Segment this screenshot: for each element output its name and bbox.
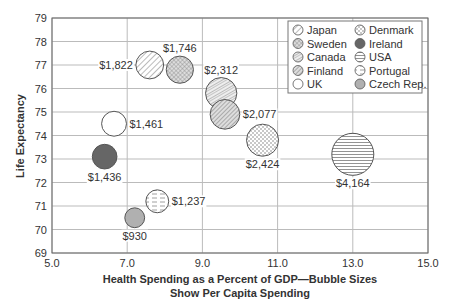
- bubble-label-japan: $1,822: [99, 59, 133, 71]
- legend-swatch-finland: [293, 66, 303, 76]
- bubble-ireland: [92, 144, 117, 169]
- y-tick-label: 72: [35, 177, 47, 189]
- legend-label-uk: UK: [307, 78, 323, 90]
- legend-label-usa: USA: [369, 51, 392, 63]
- y-tick-label: 77: [35, 59, 47, 71]
- y-tick-label: 76: [35, 83, 47, 95]
- bubble-finland: [210, 100, 240, 130]
- legend-swatch-sweden: [293, 39, 303, 49]
- bubble-label-ireland: $1,436: [88, 171, 122, 183]
- y-tick-label: 75: [35, 106, 47, 118]
- legend-label-japan: Japan: [307, 24, 337, 36]
- bubble-denmark: [247, 124, 279, 156]
- legend-label-finland: Finland: [307, 65, 343, 77]
- x-axis-title-line2: Show Per Capita Spending: [170, 287, 310, 299]
- bubble-label-portugal: $1,237: [172, 195, 206, 207]
- y-axis-title: Life Expectancy: [14, 93, 26, 178]
- legend-swatch-portugal: [355, 66, 365, 76]
- bubble-label-uk: $1,461: [129, 118, 163, 130]
- x-tick-label: 15.0: [417, 257, 438, 269]
- bubble-czech-rep: [125, 208, 145, 228]
- x-tick-label: 9.0: [195, 257, 210, 269]
- legend: JapanSwedenCanadaFinlandUKDenmarkIreland…: [288, 21, 426, 93]
- y-tick-label: 70: [35, 224, 47, 236]
- y-tick-label: 78: [35, 36, 47, 48]
- legend-label-sweden: Sweden: [307, 38, 347, 50]
- bubble-label-sweden: $1,746: [163, 42, 197, 54]
- legend-label-czech-rep: Czech Rep.: [369, 78, 426, 90]
- bubble-label-czech-rep: $930: [122, 230, 146, 242]
- bubble-portugal: [146, 190, 169, 213]
- legend-swatch-canada: [293, 52, 303, 62]
- x-axis-title-line1: Health Spending as a Percent of GDP—Bubb…: [103, 273, 377, 285]
- legend-swatch-japan: [293, 25, 303, 35]
- legend-label-denmark: Denmark: [369, 24, 414, 36]
- legend-swatch-usa: [355, 52, 365, 62]
- bubble-label-finland: $2,077: [243, 108, 277, 120]
- x-tick-label: 11.0: [267, 257, 288, 269]
- x-tick-label: 13.0: [342, 257, 363, 269]
- legend-label-canada: Canada: [307, 51, 346, 63]
- legend-label-ireland: Ireland: [369, 38, 403, 50]
- bubble-japan: [136, 51, 164, 79]
- y-tick-label: 73: [35, 153, 47, 165]
- bubble-sweden: [166, 56, 193, 83]
- y-tick-label: 71: [35, 200, 47, 212]
- y-tick-label: 79: [35, 12, 47, 24]
- bubble-label-canada: $2,312: [204, 64, 238, 76]
- x-tick-label: 7.0: [120, 257, 135, 269]
- bubble-chart: 69707172737475767778795.07.09.011.013.01…: [0, 0, 452, 308]
- bubble-label-denmark: $2,424: [246, 158, 280, 170]
- legend-swatch-czech-rep: [355, 79, 365, 89]
- legend-swatch-ireland: [355, 39, 365, 49]
- legend-swatch-uk: [293, 79, 303, 89]
- y-tick-label: 74: [35, 130, 47, 142]
- x-tick-label: 5.0: [44, 257, 59, 269]
- bubble-usa: [332, 133, 374, 175]
- bubble-uk: [102, 111, 127, 136]
- bubble-label-usa: $4,164: [336, 177, 370, 189]
- legend-label-portugal: Portugal: [369, 65, 410, 77]
- legend-swatch-denmark: [355, 25, 365, 35]
